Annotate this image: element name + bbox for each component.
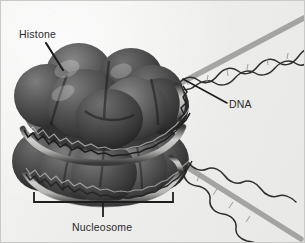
- nucleosome-bracket: [34, 193, 173, 216]
- label-histone: Histone: [19, 29, 56, 40]
- dna-leader-line: [183, 79, 227, 103]
- nucleosome-figure: Histone DNA Nucleosome: [0, 0, 305, 243]
- histone-leader-line: [46, 43, 63, 70]
- label-nucleosome: Nucleosome: [72, 222, 132, 233]
- label-dna: DNA: [229, 99, 252, 110]
